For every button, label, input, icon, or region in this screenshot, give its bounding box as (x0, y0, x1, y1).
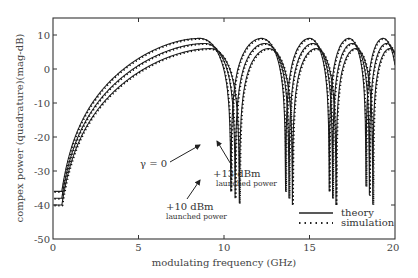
annotation-10dbm: +10 dBm (166, 201, 214, 212)
y-axis-label: compex power (quadrature)(mag-dB) (14, 34, 25, 223)
x-tick-label: 10 (218, 242, 231, 253)
annotation-13dbm: +13 dBm (213, 168, 261, 179)
legend: theory simulation (299, 207, 395, 228)
y-tick-label: -10 (34, 98, 50, 109)
annotation-10dbm-sub: launched power (166, 212, 227, 221)
x-tick-label: 0 (50, 242, 56, 253)
frequency-response-chart: 10 0 -10 -20 -30 -40 -50 0 5 10 15 20 mo… (0, 0, 418, 278)
y-tick-label: -40 (34, 200, 50, 211)
annotation-13dbm-sub: launched power (216, 179, 277, 188)
y-tick-label: -20 (34, 132, 50, 143)
y-tick-label: 10 (37, 30, 50, 41)
legend-simulation-label: simulation (341, 217, 395, 228)
y-tick-label: 0 (44, 64, 50, 75)
x-axis-label: modulating frequency (GHz) (152, 257, 297, 268)
y-tick-label: -30 (34, 166, 50, 177)
x-tick-label: 15 (303, 242, 316, 253)
x-tick-label: 20 (387, 242, 400, 253)
y-tick-label: -50 (34, 234, 50, 245)
annotations: γ = 0 +13 dBm launched power +10 dBm lau… (140, 141, 277, 221)
x-tick-label: 5 (135, 242, 141, 253)
annotation-gamma: γ = 0 (140, 158, 167, 169)
